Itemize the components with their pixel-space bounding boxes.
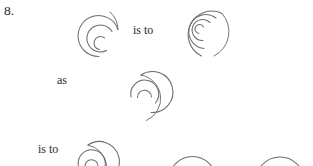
connector-is-to-first: is to [133,24,153,36]
spiral-figure-c [110,66,170,128]
connector-is-to-second: is to [38,143,58,155]
spiral-figure-b [168,0,230,66]
spiral-figure-a [68,3,124,61]
spiral-answer-option-1 [58,138,116,166]
worksheet-page: 8. [0,0,313,166]
item-number: 8. [4,4,14,18]
spiral-answer-option-3 [252,136,313,166]
spiral-answer-option-2 [160,140,226,166]
connector-as: as [57,74,67,86]
